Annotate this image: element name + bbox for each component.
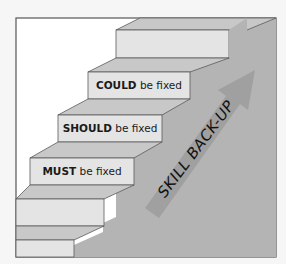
step-0 bbox=[116, 30, 229, 58]
step-4 bbox=[16, 199, 104, 226]
staircase-diagram: COULD be fixed SHOULD be fixed MUST be f… bbox=[0, 0, 286, 264]
step-label-should: SHOULD be fixed bbox=[63, 122, 158, 134]
step-label-could: COULD be fixed bbox=[96, 79, 182, 91]
step-top-bevel-0 bbox=[116, 18, 276, 30]
step-label-must: MUST be fixed bbox=[42, 165, 121, 177]
step-5 bbox=[16, 240, 74, 257]
